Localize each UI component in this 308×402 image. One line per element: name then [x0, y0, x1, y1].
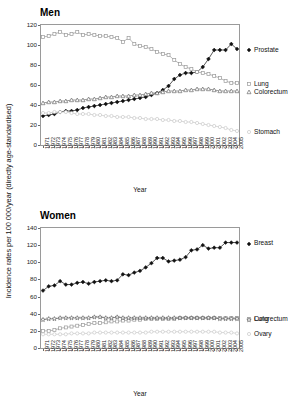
data-point [178, 330, 181, 333]
data-point [201, 72, 204, 75]
data-point [230, 128, 233, 131]
data-point [167, 330, 170, 333]
data-point [69, 316, 73, 320]
data-point [70, 332, 73, 335]
data-point [195, 330, 198, 333]
data-point [93, 113, 96, 116]
data-point [42, 329, 45, 332]
data-point [184, 66, 187, 69]
data-point [172, 259, 176, 263]
data-point [110, 101, 114, 105]
legend-marker-icon [245, 88, 253, 96]
data-point [41, 111, 44, 114]
legend-item-breast: Breast [245, 239, 273, 246]
data-point [59, 327, 62, 330]
data-point [70, 283, 74, 287]
data-point [195, 121, 198, 124]
data-point [150, 330, 153, 333]
data-point [207, 73, 210, 76]
x-axis-label-women: Year [40, 390, 240, 397]
figure-y-axis-label: Incidence rates per 100 000/year (direct… [0, 0, 16, 402]
data-point [150, 48, 153, 51]
y-tick-mark [38, 279, 40, 280]
data-point [104, 35, 107, 38]
y-tick-label: 40 [21, 311, 37, 317]
data-point [81, 332, 84, 335]
data-point [201, 330, 204, 333]
chart-panel-women: Women 020406080100120140 197119721973197… [16, 200, 308, 402]
y-tick-label: 140 [21, 225, 37, 231]
data-point [161, 330, 164, 333]
data-point [59, 31, 62, 34]
legend-item-colorectum: Colorectum [245, 315, 288, 322]
data-point [190, 68, 193, 71]
data-point [144, 117, 147, 120]
legend-label: Lung [254, 80, 269, 87]
data-point [167, 118, 170, 121]
data-point [41, 317, 45, 321]
series-line-prostate [43, 44, 237, 116]
data-point [81, 323, 84, 326]
data-point [47, 333, 50, 336]
data-point [110, 331, 113, 334]
y-tick-mark [38, 314, 40, 315]
data-point [127, 115, 130, 118]
x-tick-label: 2005 [239, 340, 244, 352]
data-point [116, 115, 119, 118]
data-point [156, 117, 159, 120]
y-tick-mark [38, 105, 40, 106]
data-point [87, 33, 90, 36]
data-point [236, 82, 239, 85]
plot-area-men [40, 24, 240, 146]
data-point [138, 331, 141, 334]
data-point [70, 111, 73, 114]
data-point [75, 108, 79, 112]
data-point [190, 330, 193, 333]
data-point [87, 282, 91, 286]
data-point [178, 258, 182, 262]
data-point [104, 114, 107, 117]
data-point [98, 331, 101, 334]
y-tick-label: 40 [21, 102, 37, 108]
data-point [92, 280, 96, 284]
data-point [64, 110, 67, 113]
data-point [133, 116, 136, 119]
data-point [47, 35, 50, 38]
data-point [116, 320, 119, 323]
plot-lines-men [41, 25, 239, 145]
y-tick-label: 20 [21, 122, 37, 128]
data-point [178, 119, 181, 122]
data-point [64, 316, 68, 320]
data-point [230, 82, 233, 85]
data-point [86, 316, 90, 320]
data-point [218, 77, 221, 80]
data-point [64, 283, 68, 287]
data-point [127, 37, 130, 40]
data-point [139, 45, 142, 48]
y-tick-label: 60 [21, 294, 37, 300]
data-point [98, 103, 102, 107]
data-point [98, 113, 101, 116]
data-point [161, 53, 164, 56]
data-point [116, 331, 119, 334]
data-point [144, 46, 147, 49]
x-tick-label: 2005 [239, 137, 244, 149]
legend-marker-icon [245, 46, 253, 54]
data-point [156, 330, 159, 333]
data-point [87, 332, 90, 335]
y-tick-label: 0 [21, 345, 37, 351]
data-point [59, 333, 62, 336]
y-tick-mark [38, 65, 40, 66]
legend-label: Prostate [254, 46, 279, 53]
data-point [53, 329, 56, 332]
data-point [110, 114, 113, 117]
data-point [235, 241, 239, 245]
data-point [133, 331, 136, 334]
data-point [229, 241, 233, 245]
data-point [98, 279, 102, 283]
legend-marker-icon [245, 316, 253, 324]
chart-title-men: Men [40, 7, 60, 18]
data-point [75, 316, 79, 320]
data-point [184, 71, 188, 75]
data-point [189, 71, 193, 75]
